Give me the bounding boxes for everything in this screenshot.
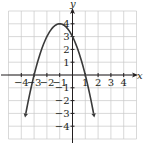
x-tick-label: 3	[108, 77, 114, 88]
chart-root: −4−3−2−11234−4−3−2−11234 x y	[0, 0, 143, 144]
y-tick-label: −4	[55, 121, 70, 132]
y-tick-label: −2	[55, 95, 70, 106]
y-tick-label: 1	[63, 57, 69, 68]
y-tick-label: −1	[55, 82, 70, 93]
x-tick-label: 4	[121, 77, 127, 88]
y-tick-label: 2	[63, 44, 69, 55]
x-tick-label: 2	[95, 77, 101, 88]
x-tick-label: 1	[82, 77, 88, 88]
y-tick-label: 4	[63, 18, 69, 29]
y-axis-label: y	[69, 0, 76, 9]
y-tick-label: −3	[55, 108, 70, 119]
y-tick-label: 3	[63, 31, 69, 42]
x-axis-label: x	[137, 70, 143, 81]
